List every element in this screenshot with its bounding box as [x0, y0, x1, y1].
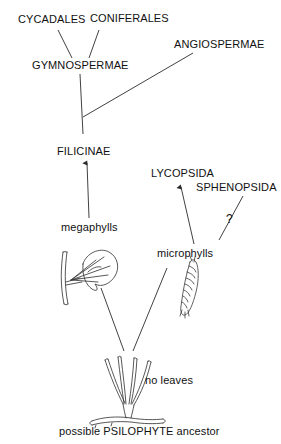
label-coniferales: CONIFERALES: [90, 13, 169, 24]
megaphyll-leaf-drawing: [61, 250, 117, 305]
line-psilophyte-to-megaphylls: [101, 288, 124, 351]
label-cycadales: CYCADALES: [18, 14, 86, 25]
microphyll-shoot-drawing: [180, 256, 198, 318]
label-lycopsida: LYCOPSIDA: [151, 168, 214, 179]
line-gymnospermae-to-coniferales: [89, 30, 99, 58]
lineage-lines-upper: [58, 30, 193, 134]
label-angiospermae: ANGIOSPERMAE: [174, 39, 264, 50]
line-psilophyte-to-microphylls: [133, 268, 167, 351]
label-sphenopsida: SPHENOPSIDA: [196, 182, 277, 193]
label-gymnospermae: GYMNOSPERMAE: [32, 60, 129, 71]
psilophyte-drawing: [90, 356, 166, 428]
label-megaphylls: megaphylls: [61, 222, 118, 233]
label-uncertain-relationship: ?: [226, 213, 233, 225]
evolution-diagram-figure: CYCADALES CONIFERALES ANGIOSPERMAE GYMNO…: [0, 0, 281, 444]
line-gymnospermae-to-cycadales: [58, 30, 72, 58]
line-node-to-gymnospermae: [80, 74, 83, 134]
caption-psilophyte-ancestor: possible PSILOPHYTE ancestor: [59, 426, 220, 437]
lineage-lines-lower: [101, 268, 167, 351]
arrow-microphylls-to-lycopsida: [181, 187, 194, 244]
label-filicinae: FILICINAE: [57, 146, 110, 157]
label-microphylls: microphylls: [157, 248, 213, 259]
arrow-megaphylls-to-filicinae: [87, 163, 89, 218]
label-no-leaves: no leaves: [145, 375, 193, 386]
